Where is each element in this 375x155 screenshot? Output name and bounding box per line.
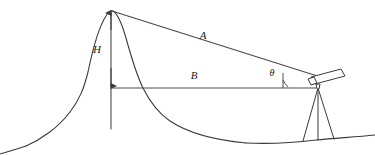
base-distance-label: B xyxy=(191,69,198,81)
slant-distance-a-line xyxy=(112,11,330,80)
theodolite-mount xyxy=(316,84,320,89)
elevation-angle-label: θ xyxy=(270,67,275,78)
mountain-profile-path xyxy=(26,11,246,146)
lower-ground-path xyxy=(246,135,375,143)
tripod-leg-right xyxy=(318,88,334,139)
angle-arc xyxy=(283,80,288,87)
mountain-height-diagram: H A B θ xyxy=(0,0,375,155)
height-label: H xyxy=(92,43,102,55)
valley-slope-path xyxy=(0,146,26,154)
slant-distance-label: A xyxy=(199,29,207,41)
diagram-canvas: H A B θ xyxy=(0,0,375,155)
tripod-leg-left xyxy=(303,88,318,141)
